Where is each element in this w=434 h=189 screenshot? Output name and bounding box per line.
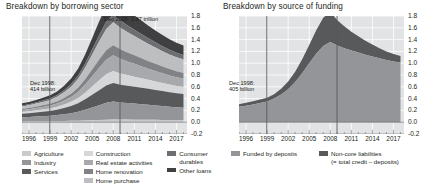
y-tick-label: 0.4 <box>191 96 200 102</box>
annotation-dec-1998-left: Dec 1998: 414 billion <box>30 80 56 92</box>
x-tick-label: 2005 <box>302 135 316 142</box>
legend-label: Real estate activities <box>96 159 153 167</box>
plot-area-left <box>22 16 187 134</box>
legend-swatch-icon <box>84 169 93 174</box>
x-tick-label: 2011 <box>344 135 358 142</box>
legend-label: Funded by deposits <box>243 150 297 158</box>
panel-source-of-funding: Breakdown by source of funding 1.81.61.4… <box>217 0 434 189</box>
y-tick-label: 0.2 <box>408 107 417 113</box>
legend-swatch-icon <box>22 169 31 174</box>
legend-swatch-icon <box>167 151 176 156</box>
legend-item[interactable]: Funded by deposits <box>231 150 319 158</box>
legend-label: Non-core liabilities(= total credit – de… <box>331 150 399 165</box>
x-tick-label: 2008 <box>106 135 120 142</box>
y-axis-labels-left: 1.81.61.41.21.00.80.60.40.20.0-0.2 <box>189 16 215 134</box>
annotation-dec-2008-peak: Dec 2008: 1.87 trillion <box>104 16 158 22</box>
legend-item[interactable]: Consumerdurables <box>167 150 217 165</box>
y-tick-label: 0.0 <box>408 119 417 125</box>
x-tick-label: 1996 <box>22 135 36 142</box>
y-tick-label: 1.0 <box>191 60 200 66</box>
y-tick-label: 1.8 <box>408 13 417 19</box>
annotation-dec-1998-right: Dec 1998: 405 billion <box>229 80 255 92</box>
y-tick-label: 1.6 <box>408 25 417 31</box>
legend-column: Non-core liabilities(= total credit – de… <box>319 150 429 165</box>
x-tick-label: 2005 <box>85 135 99 142</box>
y-tick-label: 0.0 <box>191 119 200 125</box>
y-tick-label: 0.2 <box>191 107 200 113</box>
legend-item[interactable]: Construction <box>84 150 168 158</box>
legend-item[interactable]: Non-core liabilities(= total credit – de… <box>319 150 429 165</box>
legend-swatch-icon <box>22 160 31 165</box>
legend-label-sub: durables <box>179 158 208 166</box>
x-tick-label: 2002 <box>281 135 295 142</box>
chart-page: Breakdown by borrowing sector 1.81.61.41… <box>0 0 434 189</box>
legend-label: Other loans <box>179 167 211 175</box>
legend-swatch-icon <box>231 151 240 156</box>
x-tick-label: 1996 <box>239 135 253 142</box>
y-tick-label: 1.2 <box>191 48 200 54</box>
legend-swatch-icon <box>22 151 31 156</box>
y-tick-label: 0.4 <box>408 96 417 102</box>
panel-borrowing-sector: Breakdown by borrowing sector 1.81.61.41… <box>0 0 217 189</box>
legend-swatch-icon <box>84 178 93 183</box>
legend-label: Industry <box>34 159 56 167</box>
legend-item[interactable]: Industry <box>22 159 84 167</box>
y-tick-label: 0.8 <box>408 72 417 78</box>
y-tick-label: -0.2 <box>191 131 202 137</box>
legend-item[interactable]: Home purchase <box>84 177 168 185</box>
y-tick-label: 1.4 <box>191 37 200 43</box>
x-tick-label: 2017 <box>169 135 183 142</box>
panel-title-left: Breakdown by borrowing sector <box>6 2 124 11</box>
legend-column: Funded by deposits <box>231 150 319 165</box>
x-tick-label: 1999 <box>43 135 57 142</box>
plot-area-right <box>239 16 404 134</box>
x-tick-label: 2011 <box>127 135 141 142</box>
legend-label: Home renovation <box>96 168 143 176</box>
y-tick-label: 1.0 <box>408 60 417 66</box>
y-tick-label: 0.8 <box>191 72 200 78</box>
legend-label: Construction <box>96 150 131 158</box>
y-tick-label: 1.2 <box>408 48 417 54</box>
stacked-area-chart-left <box>22 16 187 134</box>
y-tick-label: 1.8 <box>191 13 200 19</box>
panel-title-right: Breakdown by source of funding <box>223 2 343 11</box>
legend-column: AgricultureIndustryServices <box>22 150 84 185</box>
legend-item[interactable]: Services <box>22 168 84 176</box>
y-tick-label: 1.6 <box>191 25 200 31</box>
legend-label-sub: (= total credit – deposits) <box>331 158 399 166</box>
x-axis-labels-right: 19961999200220052008201120142017 <box>239 135 404 147</box>
legend-swatch-icon <box>167 168 176 173</box>
x-axis-labels-left: 19961999200220052008201120142017 <box>22 135 187 147</box>
stacked-area-chart-right <box>239 16 404 134</box>
legend-column: ConstructionReal estate activitiesHome r… <box>84 150 168 185</box>
legend-left: AgricultureIndustryServicesConstructionR… <box>22 150 217 185</box>
legend-label: Services <box>34 168 58 176</box>
legend-label: Home purchase <box>96 177 140 185</box>
legend-swatch-icon <box>84 160 93 165</box>
y-axis-labels-right: 1.81.61.41.21.00.80.60.40.20.0-0.2 <box>406 16 432 134</box>
y-tick-label: 0.6 <box>408 84 417 90</box>
x-tick-label: 2014 <box>365 135 379 142</box>
legend-label: Consumerdurables <box>179 150 208 165</box>
x-tick-label: 2002 <box>64 135 78 142</box>
legend-label: Agriculture <box>34 150 64 158</box>
legend-item[interactable]: Real estate activities <box>84 159 168 167</box>
y-tick-label: 1.4 <box>408 37 417 43</box>
legend-swatch-icon <box>84 151 93 156</box>
legend-swatch-icon <box>319 151 328 156</box>
y-tick-label: -0.2 <box>408 131 419 137</box>
x-tick-label: 2017 <box>386 135 400 142</box>
legend-column: ConsumerdurablesOther loans <box>167 150 217 185</box>
x-tick-label: 2014 <box>148 135 162 142</box>
x-tick-label: 1999 <box>260 135 274 142</box>
legend-item[interactable]: Other loans <box>167 167 217 175</box>
y-tick-label: 0.6 <box>191 84 200 90</box>
legend-item[interactable]: Home renovation <box>84 168 168 176</box>
x-tick-label: 2008 <box>323 135 337 142</box>
legend-right: Funded by depositsNon-core liabilities(=… <box>231 150 431 165</box>
legend-item[interactable]: Agriculture <box>22 150 84 158</box>
